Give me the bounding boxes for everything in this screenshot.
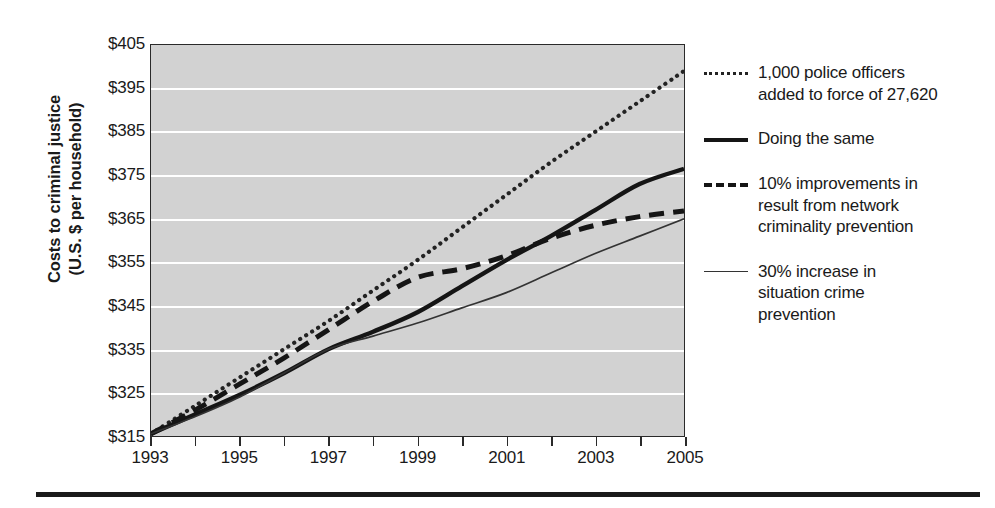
solid-thin-line-icon (703, 261, 749, 283)
legend-item-label: 10% improvements in result from network … (758, 173, 918, 238)
x-axis-tick (328, 437, 330, 446)
x-axis-tick (596, 437, 598, 446)
dotted-line-icon (703, 62, 749, 84)
y-axis-tick-label: $355 (5, 253, 145, 270)
x-axis-tick-label: 1999 (378, 448, 458, 468)
y-axis-tick-label: $325 (5, 384, 145, 401)
series-line (151, 169, 684, 434)
x-axis-tick (284, 437, 286, 446)
x-axis-tick-label: 2005 (645, 448, 725, 468)
legend-item-label: Doing the same (758, 128, 874, 150)
solid-thick-line-icon (703, 128, 749, 150)
x-axis-tick-label: 1997 (288, 448, 368, 468)
y-axis-tick-label: $385 (5, 122, 145, 139)
x-axis-tick-label: 2001 (467, 448, 547, 468)
y-axis-tick-label: $335 (5, 341, 145, 358)
y-axis-tick-label: $365 (5, 210, 145, 227)
x-axis-tick (685, 437, 687, 446)
x-axis-tick (195, 437, 197, 446)
y-axis-tick-label: $345 (5, 297, 145, 314)
legend-item[interactable]: Doing the same (703, 128, 988, 150)
x-axis-tick-label: 2003 (556, 448, 636, 468)
legend-item[interactable]: 10% improvements in result from network … (703, 173, 988, 238)
legend-item[interactable]: 1,000 police officers added to force of … (703, 62, 988, 105)
x-axis-tick (239, 437, 241, 446)
series-line (151, 219, 684, 434)
bottom-divider (36, 492, 980, 497)
x-axis-tick-label: 1993 (110, 448, 190, 468)
y-axis-tick-label: $395 (5, 79, 145, 96)
chart-legend: 1,000 police officers added to force of … (703, 62, 988, 348)
legend-item-label: 1,000 police officers added to force of … (758, 62, 938, 105)
y-axis-tick-label: $375 (5, 166, 145, 183)
x-axis-tick-label: 1995 (199, 448, 279, 468)
y-axis-tick-label: $315 (5, 428, 145, 445)
y-axis-tick-labels: $405$395$385$375$365$355$345$335$325$315 (0, 0, 145, 508)
chart-figure: Costs to criminal justice (U.S. $ per ho… (0, 0, 995, 508)
x-axis-tick (150, 437, 152, 446)
x-axis-tick (462, 437, 464, 446)
x-axis-tick (507, 437, 509, 446)
dashed-line-icon (703, 173, 749, 195)
legend-item-label: 30% increase in situation crime preventi… (758, 261, 876, 326)
plot-area (150, 44, 685, 437)
x-axis-tick (551, 437, 553, 446)
y-axis-tick-label: $405 (5, 35, 145, 52)
series-lines (151, 45, 684, 436)
legend-item[interactable]: 30% increase in situation crime preventi… (703, 261, 988, 326)
x-axis-tick (418, 437, 420, 446)
x-axis-tick (640, 437, 642, 446)
series-line (151, 71, 684, 434)
x-axis-tick (373, 437, 375, 446)
